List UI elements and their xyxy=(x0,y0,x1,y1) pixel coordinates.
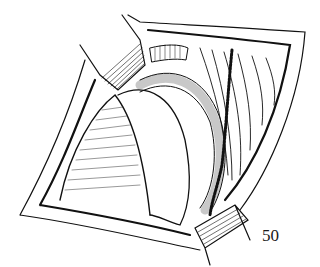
wound-margin xyxy=(40,30,290,235)
figure-page: 50 xyxy=(0,0,320,267)
figure-number: 50 xyxy=(262,226,279,246)
vessel-large xyxy=(140,78,220,210)
upper-retractor xyxy=(80,15,145,90)
vessel-top xyxy=(150,45,188,62)
middle-tissue xyxy=(118,90,189,225)
